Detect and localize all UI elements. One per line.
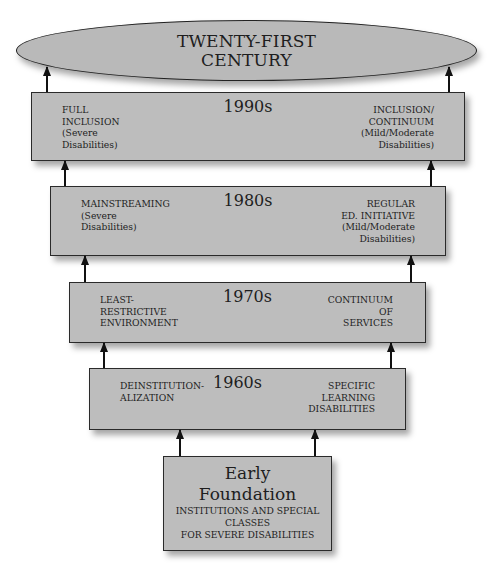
text-line: SPECIFIC xyxy=(308,380,375,392)
text-line: OF xyxy=(328,306,393,318)
text-line: CONTINUUM xyxy=(328,294,393,306)
text-line: LEARNING xyxy=(308,392,375,404)
era-left-text: FULL INCLUSION (Severe Disabilities) xyxy=(62,104,120,150)
arrow-up-icon xyxy=(390,343,392,368)
arrow-up-icon xyxy=(314,430,316,456)
arrow-up-icon xyxy=(103,343,105,368)
era-box-1990s: 1990s FULL INCLUSION (Severe Disabilitie… xyxy=(31,92,465,161)
text-line: (Severe xyxy=(62,127,120,139)
text-line: INCLUSION xyxy=(62,116,120,128)
foundation-desc-line2: CLASSES xyxy=(164,517,331,529)
early-foundation-box: Early Foundation INSTITUTIONS AND SPECIA… xyxy=(163,456,332,551)
text-line: DEINSTITUTION- xyxy=(120,380,204,392)
era-right-text: SPECIFIC LEARNING DISABILITIES xyxy=(308,380,375,415)
foundation-desc-line3: FOR SEVERE DISABILITIES xyxy=(164,529,331,541)
era-right-text: CONTINUUM OF SERVICES xyxy=(328,294,393,329)
foundation-title-line1: Early xyxy=(164,463,331,484)
text-line: DISABILITIES xyxy=(308,403,375,415)
era-left-text: LEAST- RESTRICTIVE ENVIRONMENT xyxy=(100,294,178,329)
text-line: FULL xyxy=(62,104,120,116)
ellipse-title-line1: TWENTY-FIRST xyxy=(177,32,316,51)
twenty-first-century-ellipse: TWENTY-FIRST CENTURY xyxy=(16,20,477,81)
text-line: MAINSTREAMING xyxy=(81,198,170,210)
text-line: CONTINUUM xyxy=(361,116,434,128)
text-line: Disabilities) xyxy=(81,221,170,233)
arrow-up-icon xyxy=(64,161,66,186)
arrow-up-icon xyxy=(46,67,48,92)
text-line: Disabilities) xyxy=(341,233,415,245)
text-line: INCLUSION/ xyxy=(361,104,434,116)
ellipse-title-line2: CENTURY xyxy=(201,51,292,70)
text-line: Disabilities) xyxy=(62,139,120,151)
era-right-text: INCLUSION/ CONTINUUM (Mild/Moderate Disa… xyxy=(361,104,434,150)
arrow-up-icon xyxy=(410,256,412,282)
era-box-1970s: 1970s LEAST- RESTRICTIVE ENVIRONMENT CON… xyxy=(69,282,426,343)
text-line: SERVICES xyxy=(328,317,393,329)
text-line: (Mild/Moderate xyxy=(361,127,434,139)
text-line: (Mild/Moderate xyxy=(341,221,415,233)
era-box-1980s: 1980s MAINSTREAMING (Severe Disabilities… xyxy=(50,186,446,256)
text-line: ENVIRONMENT xyxy=(100,317,178,329)
text-line: LEAST- xyxy=(100,294,178,306)
era-left-text: MAINSTREAMING (Severe Disabilities) xyxy=(81,198,170,233)
era-box-1960s: 1960s DEINSTITUTION- ALIZATION SPECIFIC … xyxy=(89,368,406,430)
arrow-up-icon xyxy=(179,430,181,456)
arrow-up-icon xyxy=(430,161,432,186)
text-line: RESTRICTIVE xyxy=(100,306,178,318)
arrow-up-icon xyxy=(84,256,86,282)
text-line: ED. INITIATIVE xyxy=(341,210,415,222)
foundation-title-line2: Foundation xyxy=(164,484,331,505)
text-line: (Severe xyxy=(81,210,170,222)
era-right-text: REGULAR ED. INITIATIVE (Mild/Moderate Di… xyxy=(341,198,415,244)
arrow-up-icon xyxy=(448,67,450,92)
foundation-desc-line1: INSTITUTIONS AND SPECIAL xyxy=(164,505,331,517)
text-line: ALIZATION xyxy=(120,392,204,404)
text-line: Disabilities) xyxy=(361,139,434,151)
text-line: REGULAR xyxy=(341,198,415,210)
era-left-text: DEINSTITUTION- ALIZATION xyxy=(120,380,204,403)
